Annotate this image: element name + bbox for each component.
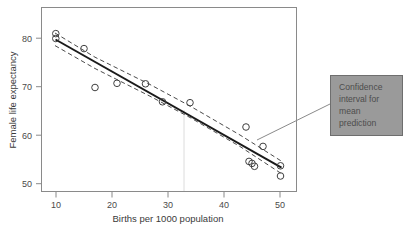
y-tick-label-80: 80 [22, 34, 32, 44]
callout-line-1: Confidence [339, 82, 383, 92]
confidence-interval-upper-line [55, 33, 282, 162]
y-axis-title: Female life expectancy [7, 51, 18, 148]
y-axis-ticks [36, 38, 42, 184]
x-tick-label-30: 30 [163, 200, 173, 210]
data-point [114, 80, 121, 87]
y-axis-tick-labels: 80 70 60 50 [22, 34, 32, 190]
callout-leader-line [257, 104, 330, 140]
callout-line-2: interval for [339, 94, 379, 104]
x-axis-title: Births per 1000 population [113, 213, 224, 224]
plot-frame [42, 8, 297, 192]
regression-fit-line [56, 40, 282, 168]
data-point [187, 99, 194, 106]
callout-line-3: mean [339, 106, 361, 116]
x-tick-label-50: 50 [275, 200, 285, 210]
y-tick-label-50: 50 [22, 179, 32, 189]
confidence-interval-callout[interactable]: Confidence interval for mean prediction [331, 76, 403, 136]
x-tick-label-40: 40 [219, 200, 229, 210]
chart-figure: 80 70 60 50 10 20 30 40 50 Births per 10… [0, 0, 408, 228]
x-axis-ticks [56, 192, 280, 198]
data-point [92, 84, 99, 91]
x-tick-label-20: 20 [107, 200, 117, 210]
callout-line-4: prediction [339, 118, 376, 128]
data-point [277, 173, 284, 180]
y-tick-label-60: 60 [22, 131, 32, 141]
data-point [260, 143, 267, 150]
data-point [243, 124, 250, 131]
scatter-plot-svg: 80 70 60 50 10 20 30 40 50 Births per 10… [0, 0, 408, 228]
x-tick-label-10: 10 [51, 200, 61, 210]
confidence-interval-lower-line [55, 46, 282, 174]
x-axis-tick-labels: 10 20 30 40 50 [51, 200, 285, 210]
y-tick-label-70: 70 [22, 82, 32, 92]
